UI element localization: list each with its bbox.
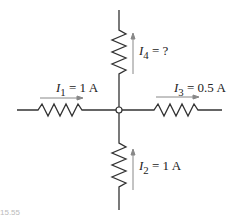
- circuit-diagram: I1 = 1 A I3 = 0.5 A I4 = ? I2 = 1 A 15.5…: [0, 0, 235, 220]
- current-label-I1: I1 = 1 A: [56, 80, 98, 98]
- top-branch: [112, 10, 126, 107]
- current-label-I4: I4 = ?: [139, 43, 168, 61]
- figure-caption: 15.55: [0, 208, 20, 217]
- current-label-I3: I3 = 0.5 A: [174, 80, 226, 98]
- circuit-drawing: [0, 0, 235, 220]
- right-branch: [122, 104, 222, 116]
- bottom-branch: [112, 113, 126, 210]
- current-label-I2: I2 = 1 A: [139, 158, 181, 176]
- left-branch: [17, 104, 116, 116]
- junction-node: [116, 107, 122, 113]
